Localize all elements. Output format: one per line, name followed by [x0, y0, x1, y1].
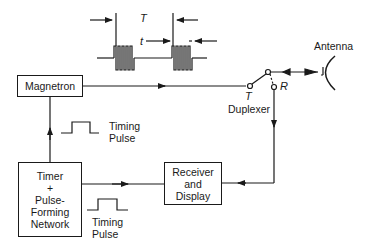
- pulse-train: [97, 46, 207, 70]
- antenna-label: Antenna: [314, 40, 353, 52]
- timing-pulse-label-2: Timing Pulse: [92, 216, 123, 240]
- duplexer-t-label: T: [245, 90, 252, 102]
- receiver-label-line3: Display: [176, 190, 210, 202]
- timer-label-line1: Timer: [37, 170, 63, 182]
- timing-pulse-label-1: Timing Pulse: [109, 120, 140, 144]
- timer-label-line3: Pulse-: [35, 194, 65, 206]
- receiver-label-line1: Receiver: [172, 166, 213, 178]
- magnetron-block: Magnetron: [17, 75, 83, 97]
- magnetron-label: Magnetron: [25, 80, 75, 92]
- timer-label-line4: Forming: [31, 206, 70, 218]
- timing-pulse-waveform-2: [87, 199, 128, 210]
- duplexer-r-label: R: [280, 80, 288, 92]
- period-label: T: [140, 12, 147, 24]
- receiver-label-line2: and: [184, 178, 202, 190]
- timer-label-line2: +: [47, 182, 53, 194]
- timing-pulse-waveform-1: [61, 122, 99, 133]
- receiver-display-block: Receiver and Display: [164, 162, 222, 205]
- pulse-width-label: t: [140, 35, 143, 47]
- timer-label-line5: Network: [31, 218, 70, 230]
- timer-pulse-forming-network-block: Timer + Pulse- Forming Network: [18, 162, 82, 237]
- duplexer-label: Duplexer: [228, 103, 270, 115]
